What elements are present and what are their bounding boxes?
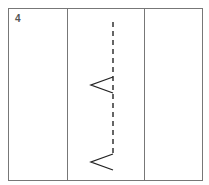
chevron-left-icon xyxy=(91,77,113,93)
outer-frame xyxy=(9,9,203,181)
chevron-left-icon xyxy=(91,154,113,170)
fold-diagram xyxy=(0,0,209,185)
